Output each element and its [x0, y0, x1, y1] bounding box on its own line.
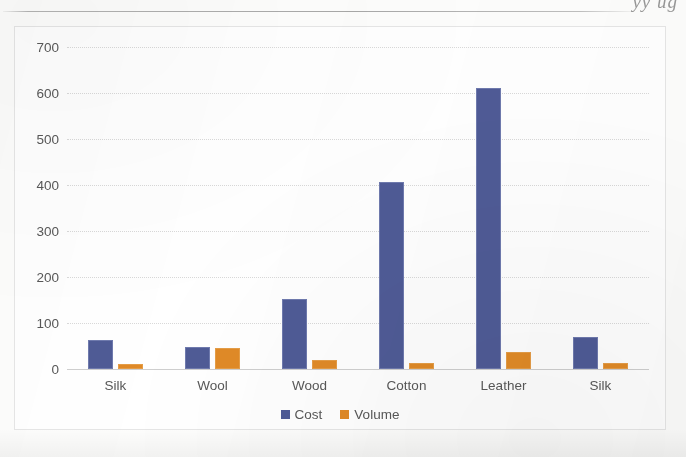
clipped-header-text: yy ug: [632, 0, 678, 13]
bar-cost: [573, 337, 598, 369]
chart-container: 0100200300400500600700 SilkWoolWoodCotto…: [14, 26, 666, 430]
y-axis-tick-label: 300: [36, 224, 59, 239]
bar-group: Silk: [552, 47, 649, 369]
bar-group: Cotton: [358, 47, 455, 369]
x-axis-category-label: Wood: [292, 378, 327, 393]
x-axis-category-label: Leather: [481, 378, 527, 393]
page-horizontal-rule: [3, 11, 631, 12]
legend-swatch-icon: [281, 410, 290, 419]
bar-volume: [118, 364, 143, 369]
y-axis-tick-label: 100: [36, 316, 59, 331]
bar-volume: [215, 348, 240, 369]
page-shadow-overlay: [0, 429, 686, 457]
bar-group: Silk: [67, 47, 164, 369]
y-axis-tick-label: 500: [36, 132, 59, 147]
x-axis-category-label: Silk: [105, 378, 127, 393]
bar-cost: [476, 88, 501, 369]
axis-baseline: [67, 369, 649, 370]
bar-group: Wool: [164, 47, 261, 369]
y-axis-tick-label: 600: [36, 86, 59, 101]
legend-label: Volume: [354, 407, 399, 422]
legend-item-volume[interactable]: Volume: [340, 407, 399, 422]
bars-layer: SilkWoolWoodCottonLeatherSilk: [67, 47, 649, 369]
y-axis-tick-label: 400: [36, 178, 59, 193]
legend-swatch-icon: [340, 410, 349, 419]
y-axis-tick-label: 700: [36, 40, 59, 55]
bar-cost: [185, 347, 210, 369]
x-axis-category-label: Wool: [197, 378, 228, 393]
legend-item-cost[interactable]: Cost: [281, 407, 323, 422]
x-axis-category-label: Silk: [590, 378, 612, 393]
bar-volume: [409, 363, 434, 369]
bar-volume: [603, 363, 628, 369]
bar-volume: [312, 360, 337, 369]
bar-cost: [282, 299, 307, 369]
y-axis-tick-label: 0: [51, 362, 59, 377]
bar-group: Wood: [261, 47, 358, 369]
x-axis-category-label: Cotton: [387, 378, 427, 393]
plot-area: 0100200300400500600700 SilkWoolWoodCotto…: [67, 47, 649, 369]
bar-group: Leather: [455, 47, 552, 369]
y-axis-tick-label: 200: [36, 270, 59, 285]
bar-cost: [88, 340, 113, 369]
chart-legend: CostVolume: [15, 407, 665, 422]
bar-cost: [379, 182, 404, 369]
legend-label: Cost: [295, 407, 323, 422]
bar-volume: [506, 352, 531, 369]
